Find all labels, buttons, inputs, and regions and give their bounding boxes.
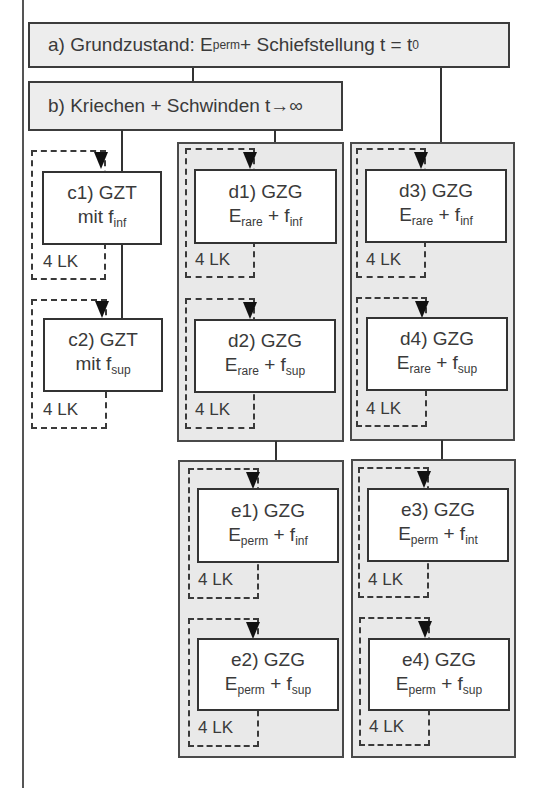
node-e2-title: e2) GZG [231,648,305,672]
arrow-c2-icon [95,301,109,318]
node-d4: d4) GZG Erare + fsup [366,317,508,391]
loop-label-e4: 4 LK [369,717,404,737]
node-d3-formula: Erare + finf [399,203,473,233]
box-a-sub-0: 0 [412,38,419,52]
node-e4-title: e4) GZG [402,648,476,672]
box-a-initial-state: a) Grundzustand: Eperm + Schiefstellung … [28,22,510,68]
node-e1: e1) GZG Eperm + finf [197,488,339,563]
node-d1-formula: Erare + finf [229,204,303,234]
node-e1-formula: Eperm + finf [228,523,308,553]
node-d2-formula: Erare + fsup [225,353,305,383]
loop-label-e3: 4 LK [368,570,403,590]
arrow-d2-icon [243,302,257,319]
loop-label-c1: 4 LK [43,252,78,272]
connector-a-b [192,68,194,82]
arrow-d4-icon [415,301,429,318]
node-e2-formula: Eperm + fsup [225,672,311,702]
arrow-e2-icon [246,622,260,639]
node-e2: e2) GZG Eperm + fsup [197,638,339,711]
box-b-creep-shrinkage: b) Kriechen + Schwinden t→∞ [28,81,343,131]
node-d3: d3) GZG Erare + finf [365,169,507,243]
loop-label-c2: 4 LK [43,400,78,420]
loop-label-e1: 4 LK [198,570,233,590]
connector-d-right-e-right [441,440,443,460]
node-d2: d2) GZG Erare + fsup [194,319,336,393]
loop-label-d4: 4 LK [366,399,401,419]
node-e3-formula: Eperm + fint [398,522,478,552]
connector-a-right [440,68,442,143]
arrow-c1-icon [94,152,108,169]
node-e4: e4) GZG Eperm + fsup [368,638,510,711]
loop-label-e2: 4 LK [198,718,233,738]
arrow-e3-icon [417,471,431,488]
node-d3-title: d3) GZG [399,179,473,203]
node-c1-line2: mit finf [78,205,127,235]
node-c2: c2) GZT mit fsup [43,318,163,392]
margin-rule [22,0,24,788]
node-d1-title: d1) GZG [229,180,303,204]
loop-label-d3: 4 LK [366,250,401,270]
node-e4-formula: Eperm + fsup [396,672,482,702]
node-e3: e3) GZG Eperm + fint [367,488,509,562]
node-d1: d1) GZG Erare + finf [194,169,337,244]
box-a-mid: + Schiefstellung t = t [240,34,412,56]
connector-d-left-e-left [275,441,277,461]
connector-b-c [121,130,123,172]
loop-label-d1: 4 LK [195,250,230,270]
box-a-prefix: a) Grundzustand: E [48,34,213,56]
node-e1-title: e1) GZG [231,499,305,523]
box-a-sub-perm: perm [213,38,240,52]
arrow-d1-icon [243,152,257,169]
connector-c1-c2 [121,244,123,319]
node-c1: c1) GZT mit finf [42,171,162,245]
node-d4-formula: Erare + fsup [397,351,477,381]
node-c1-title: c1) GZT [67,181,137,205]
arrow-e1-icon [246,472,260,489]
node-c2-title: c2) GZT [68,328,138,352]
node-e3-title: e3) GZG [401,498,475,522]
box-b-label: b) Kriechen + Schwinden t→∞ [48,95,303,117]
loop-label-d2: 4 LK [195,400,230,420]
arrow-d3-icon [414,152,428,169]
arrow-e4-icon [418,621,432,638]
node-d2-title: d2) GZG [228,329,302,353]
node-d4-title: d4) GZG [400,327,474,351]
node-c2-line2: mit fsup [75,352,130,382]
